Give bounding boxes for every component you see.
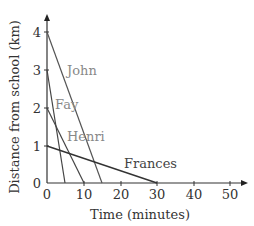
x-axis-label: Time (minutes) [90,207,190,222]
x-axis-arrow-icon [241,180,248,186]
y-axis-arrow-icon [44,14,50,21]
y-tick-3: 3 [33,63,41,78]
y-tick-2: 2 [33,101,41,116]
x-tick-20: 20 [113,187,130,202]
x-tick-40: 40 [186,187,203,202]
y-tick-4: 4 [33,25,41,40]
distance-time-chart: 0 10 20 30 40 50 0 1 2 3 4 Time (minutes… [0,0,254,226]
x-tick-30: 30 [149,187,166,202]
x-tick-10: 10 [76,187,93,202]
y-tick-1: 1 [33,139,41,154]
x-tick-0: 0 [43,187,51,202]
y-axis-label: Distance from school (km) [7,20,22,194]
label-frances: Frances [124,156,177,171]
y-tick-0: 0 [33,176,41,191]
x-tick-50: 50 [222,187,239,202]
label-john: John [65,63,97,78]
label-fay: Fay [55,97,79,112]
label-henri: Henri [67,129,105,144]
